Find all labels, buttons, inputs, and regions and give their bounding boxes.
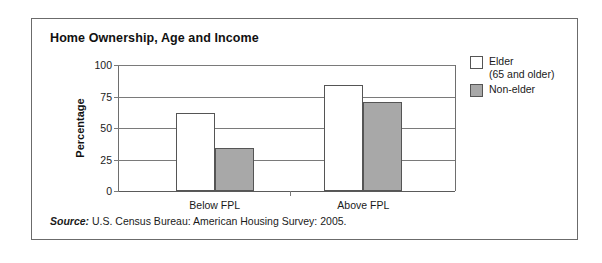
gridline-25 [119,160,455,161]
gridline-50 [119,128,455,129]
legend-label-elder-line2: (65 and older) [489,68,554,80]
gridline-100 [119,65,455,66]
legend-swatch-nonelder-icon [470,84,483,97]
y-tick-label-0: 0 [106,185,112,197]
legend-label-elder-line1: Elder [489,55,514,67]
gridline-0 [119,191,455,192]
y-tick-mark-75 [114,97,119,98]
y-axis-title: Percentage [74,65,88,191]
y-tick-mark-25 [114,160,119,161]
y-tick-label-100: 100 [94,59,112,71]
chart-legend: Elder (65 and older) Non-elder [470,55,554,100]
y-tick-mark-100 [114,65,119,66]
gridline-75 [119,97,455,98]
source-note: Source: U.S. Census Bureau: American Hou… [50,215,346,227]
bar-below-fpl-elder [176,113,215,191]
x-tick-label-below-fpl: Below FPL [189,199,240,211]
x-tick-label-above-fpl: Above FPL [337,199,389,211]
plot-area: 0255075100Below FPLAbove FPL [118,65,456,191]
legend-item-nonelder: Non-elder [470,83,554,97]
y-tick-label-25: 25 [100,154,112,166]
x-tick-mark-group-divider [290,191,291,196]
chart-title: Home Ownership, Age and Income [50,31,259,45]
source-note-text: U.S. Census Bureau: American Housing Sur… [92,215,346,227]
y-tick-label-75: 75 [100,91,112,103]
y-tick-mark-0 [114,191,119,192]
source-note-label: Source: [50,215,89,227]
legend-label-nonelder: Non-elder [489,83,535,96]
y-tick-label-50: 50 [100,122,112,134]
bar-above-fpl-elder [324,85,363,191]
legend-label-elder: Elder (65 and older) [489,55,554,80]
chart-figure-frame: Home Ownership, Age and Income Percentag… [31,18,578,240]
bar-below-fpl-nonelder [215,148,254,191]
legend-swatch-elder-icon [470,56,483,69]
y-tick-mark-50 [114,128,119,129]
bar-above-fpl-nonelder [363,102,402,191]
legend-item-elder: Elder (65 and older) [470,55,554,80]
